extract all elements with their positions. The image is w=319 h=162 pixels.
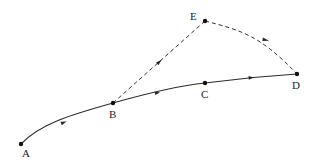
label-e: E <box>190 10 197 22</box>
point-e <box>203 19 207 23</box>
arrow-icon-e-d <box>262 38 269 42</box>
arrow-icon-a-b <box>61 122 67 126</box>
arrow-icon-b-c <box>155 92 160 96</box>
label-c: C <box>201 88 208 100</box>
solid-path-b-c <box>113 83 205 103</box>
point-a <box>19 142 23 146</box>
point-d <box>295 72 299 76</box>
dashed-path-e-d <box>205 21 297 74</box>
label-b: B <box>109 108 116 120</box>
label-d: D <box>292 79 300 91</box>
point-b <box>111 101 115 105</box>
path-diagram: A B C D E <box>0 0 319 162</box>
point-c <box>203 81 207 85</box>
label-a: A <box>22 147 30 159</box>
solid-path-a-b <box>21 103 113 144</box>
